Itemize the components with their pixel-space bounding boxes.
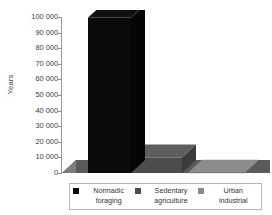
y-tick-label: 70 000 bbox=[14, 60, 58, 68]
legend-item-sedentary-agriculture[interactable]: Sedentary agriculture bbox=[135, 186, 197, 205]
legend-item-urban-industrial[interactable]: Urban industrial bbox=[198, 186, 260, 205]
y-tick-label: 80 000 bbox=[14, 44, 58, 52]
legend-swatch-icon bbox=[198, 188, 204, 194]
y-tick-label: 0 bbox=[14, 169, 58, 177]
y-tick-label: 50 000 bbox=[14, 91, 58, 99]
legend-label: Urban industrial bbox=[207, 186, 260, 205]
y-axis-tick-labels: 100 000 90 000 80 000 70 000 60 000 50 0… bbox=[14, 13, 58, 173]
plot-area bbox=[62, 10, 270, 175]
legend-label: Normadic foraging bbox=[82, 186, 135, 205]
y-tick-label: 100 000 bbox=[14, 13, 58, 21]
bar-normadic-foraging[interactable] bbox=[88, 10, 145, 173]
legend-swatch-icon bbox=[73, 188, 79, 194]
y-tick-label: 40 000 bbox=[14, 107, 58, 115]
y-tick-label: 60 000 bbox=[14, 75, 58, 83]
y-tick-label: 30 000 bbox=[14, 122, 58, 130]
legend-label: Sedentary agriculture bbox=[144, 186, 197, 205]
y-tick-label: 20 000 bbox=[14, 138, 58, 146]
chart-legend: Normadic foraging Sedentary agriculture … bbox=[69, 183, 262, 210]
y-tick-label: 10 000 bbox=[14, 153, 58, 161]
legend-item-normadic-foraging[interactable]: Normadic foraging bbox=[73, 186, 135, 205]
legend-swatch-icon bbox=[135, 188, 141, 194]
y-tick-label: 90 000 bbox=[14, 29, 58, 37]
bar-chart: Years 100 000 90 000 80 000 70 000 60 00… bbox=[0, 0, 272, 215]
